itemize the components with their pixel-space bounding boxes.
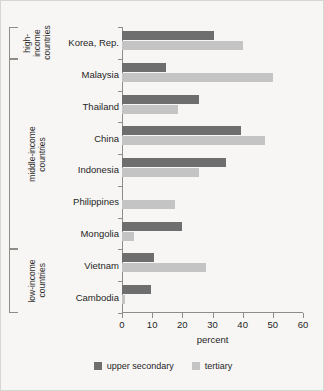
- x-axis-tick: [243, 313, 244, 318]
- bar-upper-secondary[interactable]: [122, 126, 241, 135]
- category-label: Indonesia: [51, 154, 119, 186]
- x-axis-tick-label: 0: [119, 319, 124, 330]
- y-axis-tick: [118, 122, 122, 123]
- income-group-label: high- income countries: [18, 27, 55, 59]
- x-axis-tick: [303, 313, 304, 318]
- x-axis-tick: [122, 313, 123, 318]
- bar-tertiary[interactable]: [122, 200, 175, 209]
- bar-upper-secondary[interactable]: [122, 95, 199, 104]
- x-axis-tick-labels: 0102030405060: [122, 319, 303, 333]
- y-axis-tick: [118, 281, 122, 282]
- x-axis-tick: [213, 313, 214, 318]
- legend-swatch-icon: [94, 362, 102, 370]
- bar-tertiary[interactable]: [122, 263, 206, 272]
- bar-tertiary[interactable]: [122, 136, 265, 145]
- income-group-label: middle-income countries: [18, 59, 55, 250]
- bar-row: [122, 249, 303, 281]
- bar-tertiary[interactable]: [122, 105, 178, 114]
- chart-legend: upper secondary tertiary: [1, 361, 324, 371]
- category-label: Malaysia: [51, 59, 119, 91]
- bar-upper-secondary[interactable]: [122, 285, 151, 294]
- x-axis-title: percent: [122, 334, 303, 345]
- category-label: Vietnam: [51, 249, 119, 281]
- bar-row: [122, 59, 303, 91]
- chart-figure: high- income countries middle-income cou…: [0, 0, 324, 391]
- bracket-icon: [9, 249, 18, 313]
- bar-upper-secondary[interactable]: [122, 253, 154, 262]
- bar-upper-secondary[interactable]: [122, 63, 166, 72]
- bar-upper-secondary[interactable]: [122, 158, 226, 167]
- x-axis-tick-label: 20: [177, 319, 188, 330]
- income-group: high- income countries: [9, 27, 55, 59]
- legend-label: upper secondary: [107, 361, 174, 371]
- y-axis-tick: [118, 154, 122, 155]
- legend-swatch-icon: [192, 362, 200, 370]
- bar-row: [122, 186, 303, 218]
- bar-row: [122, 154, 303, 186]
- category-label: Korea, Rep.: [51, 27, 119, 59]
- income-group-label: low-income countries: [18, 249, 55, 313]
- y-axis-tick: [118, 186, 122, 187]
- y-axis-tick: [118, 91, 122, 92]
- x-axis-tick: [273, 313, 274, 318]
- legend-label: tertiary: [205, 361, 233, 371]
- category-label: Cambodia: [51, 281, 119, 313]
- y-axis-tick: [118, 218, 122, 219]
- income-group: middle-income countries: [9, 59, 55, 250]
- plot-area: [122, 27, 303, 313]
- x-axis-tick-label: 10: [147, 319, 158, 330]
- x-axis-tick: [152, 313, 153, 318]
- x-axis-tick-label: 30: [207, 319, 218, 330]
- legend-item-tertiary[interactable]: tertiary: [192, 361, 233, 371]
- bar-tertiary[interactable]: [122, 41, 243, 50]
- x-axis-tick-label: 50: [268, 319, 279, 330]
- bar-rows: [122, 27, 303, 313]
- y-axis-tick: [118, 59, 122, 60]
- y-axis-tick: [118, 249, 122, 250]
- bracket-icon: [9, 27, 18, 59]
- x-axis-tick: [182, 313, 183, 318]
- bar-row: [122, 122, 303, 154]
- x-axis-tick-label: 60: [298, 319, 309, 330]
- bar-tertiary[interactable]: [122, 232, 134, 241]
- bar-tertiary[interactable]: [122, 73, 273, 82]
- bar-upper-secondary[interactable]: [122, 222, 182, 231]
- bar-tertiary[interactable]: [122, 168, 199, 177]
- category-axis-labels: Korea, Rep.MalaysiaThailandChinaIndonesi…: [51, 27, 119, 313]
- category-label: China: [51, 122, 119, 154]
- category-label: Mongolia: [51, 218, 119, 250]
- y-axis-tick: [118, 27, 122, 28]
- income-group-brackets: high- income countries middle-income cou…: [9, 27, 55, 313]
- category-label: Thailand: [51, 91, 119, 123]
- bar-upper-secondary[interactable]: [122, 31, 214, 40]
- income-group: low-income countries: [9, 249, 55, 313]
- bar-row: [122, 91, 303, 123]
- x-axis-tick-label: 40: [237, 319, 248, 330]
- bracket-icon: [9, 59, 18, 250]
- bar-row: [122, 218, 303, 250]
- bar-row: [122, 27, 303, 59]
- bar-row: [122, 281, 303, 313]
- bar-tertiary[interactable]: [122, 295, 125, 304]
- legend-item-upper-secondary[interactable]: upper secondary: [94, 361, 174, 371]
- category-label: Philippines: [51, 186, 119, 218]
